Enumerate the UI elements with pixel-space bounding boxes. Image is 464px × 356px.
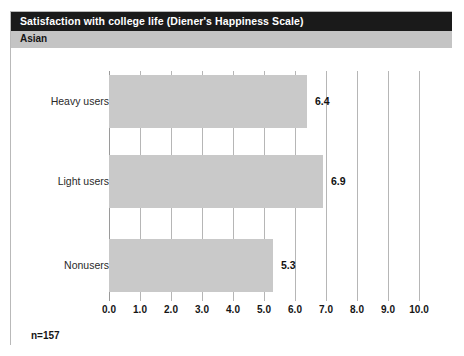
x-tick-label: 6.0 bbox=[288, 304, 302, 315]
x-tick-label: 4.0 bbox=[226, 304, 240, 315]
x-tick-label: 8.0 bbox=[350, 304, 364, 315]
bar-value-label: 6.9 bbox=[331, 175, 346, 187]
group-label: Asian bbox=[20, 33, 47, 44]
bar bbox=[109, 75, 307, 128]
category-label: Nonusers bbox=[64, 259, 109, 271]
x-tick-label: 10.0 bbox=[409, 304, 428, 315]
plot-area: Heavy users6.4Light users6.9Nonusers5.3 … bbox=[11, 48, 452, 345]
category-label: Heavy users bbox=[51, 95, 109, 107]
x-tick-label: 7.0 bbox=[319, 304, 333, 315]
bar bbox=[109, 155, 323, 208]
x-tick-label: 0.0 bbox=[102, 304, 116, 315]
chart-title-band: Satisfaction with college life (Diener's… bbox=[11, 12, 452, 31]
x-tick-label: 2.0 bbox=[164, 304, 178, 315]
bar-value-label: 5.3 bbox=[281, 259, 296, 271]
chart-group-band: Asian bbox=[11, 31, 452, 48]
x-tick-label: 3.0 bbox=[195, 304, 209, 315]
x-tick-label: 9.0 bbox=[381, 304, 395, 315]
page-title: Satisfaction with college life (Diener's… bbox=[20, 15, 304, 27]
chart-panel: Satisfaction with college life (Diener's… bbox=[10, 11, 452, 345]
bar-value-label: 6.4 bbox=[315, 95, 330, 107]
gridline bbox=[388, 71, 389, 301]
x-tick-label: 1.0 bbox=[133, 304, 147, 315]
bar bbox=[109, 239, 273, 292]
category-label: Light users bbox=[58, 175, 109, 187]
screenshot-root: Satisfaction with college life (Diener's… bbox=[0, 0, 464, 356]
sample-size-note: n=157 bbox=[31, 330, 60, 341]
gridline bbox=[419, 71, 420, 301]
gridline bbox=[357, 71, 358, 301]
x-tick-label: 5.0 bbox=[257, 304, 271, 315]
